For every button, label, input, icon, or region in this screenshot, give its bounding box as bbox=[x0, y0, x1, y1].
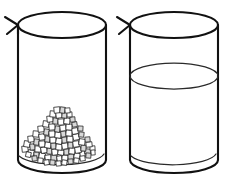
granule bbox=[53, 118, 59, 124]
granule bbox=[32, 156, 38, 162]
granule bbox=[68, 142, 73, 148]
granule bbox=[62, 143, 69, 150]
granule bbox=[66, 130, 73, 137]
granule bbox=[58, 119, 64, 125]
granule bbox=[61, 131, 67, 138]
granule bbox=[62, 137, 68, 143]
granule bbox=[39, 141, 45, 147]
granule bbox=[55, 132, 62, 139]
granule bbox=[85, 137, 90, 142]
granule bbox=[75, 147, 82, 154]
granule bbox=[86, 153, 91, 158]
granule bbox=[44, 160, 50, 166]
right-beaker-rim bbox=[130, 12, 218, 38]
granule-cluster bbox=[22, 107, 96, 166]
granule bbox=[68, 159, 73, 164]
right-beaker-base-inner-arc bbox=[131, 154, 216, 165]
left-beaker bbox=[5, 12, 106, 173]
granule bbox=[74, 158, 80, 164]
granule bbox=[60, 125, 67, 132]
granule bbox=[91, 150, 95, 155]
left-beaker-spout-icon bbox=[5, 17, 18, 34]
granule-pile bbox=[22, 107, 96, 166]
granule bbox=[72, 122, 78, 128]
granule bbox=[64, 149, 69, 155]
right-beaker-spout-icon bbox=[117, 17, 130, 34]
liquid-surface bbox=[130, 63, 218, 89]
illustration-canvas: Two beakers line drawing bbox=[0, 0, 229, 185]
granule bbox=[79, 132, 84, 137]
granule bbox=[81, 145, 86, 151]
granule bbox=[67, 136, 73, 142]
granule bbox=[60, 107, 66, 114]
granule bbox=[49, 124, 56, 131]
right-beaker bbox=[117, 12, 218, 173]
granule bbox=[86, 142, 92, 148]
right-beaker-body bbox=[130, 25, 218, 173]
granule bbox=[64, 118, 71, 125]
granule bbox=[78, 126, 83, 131]
granule bbox=[72, 128, 79, 135]
granule bbox=[80, 156, 86, 162]
granule bbox=[70, 117, 75, 122]
granule bbox=[25, 152, 31, 158]
granule bbox=[50, 160, 55, 165]
granule bbox=[56, 161, 61, 166]
granule bbox=[69, 148, 76, 155]
granule bbox=[65, 108, 70, 113]
granule bbox=[62, 160, 68, 166]
beaker-illustration: Two beakers line drawing bbox=[0, 0, 229, 185]
granule bbox=[38, 158, 43, 163]
granule bbox=[66, 124, 72, 130]
left-beaker-rim bbox=[18, 12, 106, 38]
granule bbox=[55, 137, 62, 144]
